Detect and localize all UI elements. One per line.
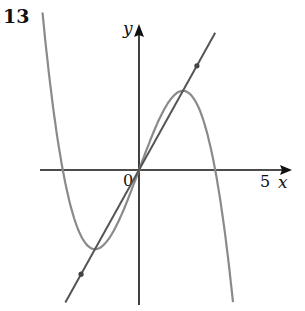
straight-line — [65, 33, 215, 303]
intersection-point — [194, 63, 199, 68]
y-axis-label: y — [122, 18, 133, 38]
x-axis-label: x — [278, 172, 288, 192]
x-tick-5: 5 — [260, 172, 270, 191]
graph: y x 5 0 — [0, 0, 305, 311]
cubic-curve — [43, 13, 234, 303]
intersection-point — [78, 272, 83, 277]
